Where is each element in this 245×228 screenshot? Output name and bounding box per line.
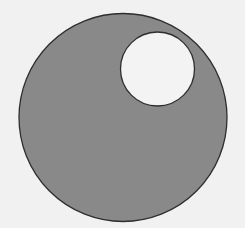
outer-shaded-circle [19,14,227,222]
inner-unshaded-circle [121,32,195,106]
diagram-canvas [0,0,245,228]
